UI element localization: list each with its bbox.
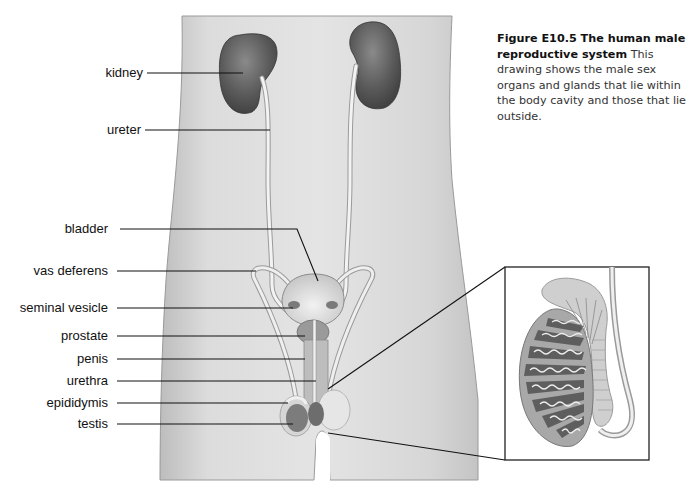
label-prostate: prostate — [61, 328, 108, 343]
testis-inset — [505, 267, 649, 460]
label-penis: penis — [77, 351, 108, 366]
label-ureter: ureter — [107, 122, 141, 137]
caption-title: Figure E10.5 The human male reproductive… — [497, 32, 685, 61]
label-kidney: kidney — [105, 65, 143, 80]
label-bladder: bladder — [65, 221, 108, 236]
figure-caption: Figure E10.5 The human male reproductive… — [497, 31, 689, 124]
label-testis: testis — [78, 416, 108, 431]
label-epididymis: epididymis — [47, 395, 108, 410]
label-urethra: urethra — [67, 373, 108, 388]
anatomy-figure: kidney ureter bladder vas deferens semin… — [0, 0, 690, 499]
seminal-vesicle-right — [326, 301, 338, 309]
label-seminal-vesicle: seminal vesicle — [20, 300, 108, 315]
bladder — [282, 274, 344, 326]
label-vas-deferens: vas deferens — [34, 263, 108, 278]
